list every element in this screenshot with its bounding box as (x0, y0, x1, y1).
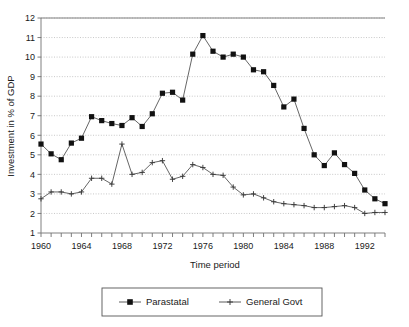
data-point-marker (251, 67, 256, 72)
data-point-marker (79, 136, 84, 141)
x-tick-label: 1980 (233, 241, 253, 251)
y-tick-label: 10 (25, 52, 35, 62)
data-point-marker (261, 195, 266, 200)
data-point-marker (119, 123, 124, 128)
data-point-marker (261, 69, 266, 74)
data-point-marker (210, 49, 215, 54)
data-point-marker (251, 191, 256, 196)
x-tick-label: 1972 (152, 241, 172, 251)
y-tick-label: 5 (30, 150, 35, 160)
y-tick-label: 6 (30, 131, 35, 141)
data-point-marker (382, 201, 387, 206)
chart-legend: ParastatalGeneral Govt (102, 288, 322, 316)
data-point-marker (231, 52, 236, 57)
series-parastatal (38, 33, 387, 206)
y-tick-label: 8 (30, 91, 35, 101)
data-point-marker (332, 150, 337, 155)
data-point-marker (372, 196, 377, 201)
data-point-marker (342, 162, 347, 167)
data-point-marker (170, 177, 175, 182)
y-tick-label: 11 (26, 33, 35, 43)
data-point-marker (99, 176, 104, 181)
data-point-marker (150, 111, 155, 116)
data-point-marker (69, 191, 74, 196)
data-point-marker (200, 33, 205, 38)
x-tick-label: 1964 (71, 241, 91, 251)
legend-label-parastatal: Parastatal (146, 296, 189, 307)
data-point-marker (129, 115, 134, 120)
data-point-marker (352, 205, 357, 210)
data-point-marker (301, 126, 306, 131)
x-tick-label: 1984 (274, 241, 294, 251)
x-axis-ticks: 196019641968197219761980198419881992 (31, 233, 385, 251)
data-point-marker (322, 163, 327, 168)
data-series (38, 33, 387, 216)
data-point-marker (69, 140, 74, 145)
x-axis-title: Time period (190, 259, 240, 270)
y-tick-label: 4 (30, 170, 35, 180)
y-tick-label: 7 (30, 111, 35, 121)
data-point-marker (322, 205, 327, 210)
data-point-marker (271, 199, 276, 204)
y-tick-label: 1 (30, 228, 35, 238)
y-tick-label: 3 (30, 189, 35, 199)
data-point-marker (99, 118, 104, 123)
data-point-marker (281, 104, 286, 109)
data-point-marker (200, 165, 205, 170)
y-tick-label: 2 (30, 209, 35, 219)
data-point-marker (291, 202, 296, 207)
data-point-marker (372, 210, 377, 215)
data-point-marker (38, 141, 43, 146)
data-point-marker (342, 203, 347, 208)
data-point-marker (221, 54, 226, 59)
data-point-marker (109, 181, 114, 186)
y-axis-ticks: 123456789101112 (25, 13, 41, 238)
data-point-marker (170, 90, 175, 95)
y-tick-label: 12 (25, 13, 35, 23)
chart-figure: 123456789101112 196019641968197219761980… (0, 0, 409, 327)
y-tick-label: 9 (30, 72, 35, 82)
data-point-marker (271, 83, 276, 88)
data-point-marker (382, 210, 387, 215)
legend-label-general-govt: General Govt (246, 296, 303, 307)
data-point-marker (119, 141, 124, 146)
x-tick-label: 1976 (193, 241, 213, 251)
data-point-marker (160, 158, 165, 163)
data-point-marker (332, 204, 337, 209)
data-point-marker (160, 91, 165, 96)
data-point-marker (312, 152, 317, 157)
data-point-marker (281, 201, 286, 206)
x-tick-label: 1960 (31, 241, 51, 251)
data-point-marker (362, 187, 367, 192)
data-point-marker (362, 211, 367, 216)
data-point-marker (109, 121, 114, 126)
data-point-marker (190, 52, 195, 57)
data-point-marker (180, 97, 185, 102)
data-point-marker (291, 97, 296, 102)
data-point-marker (301, 203, 306, 208)
data-point-marker (89, 114, 94, 119)
data-point-marker (38, 196, 43, 201)
data-point-marker (241, 54, 246, 59)
data-point-marker (352, 171, 357, 176)
investment-line-chart: 123456789101112 196019641968197219761980… (0, 0, 409, 327)
legend-marker-square (127, 299, 133, 305)
x-tick-label: 1988 (314, 241, 334, 251)
y-axis-title: Investment in % of GDP (5, 75, 16, 176)
data-point-marker (311, 205, 316, 210)
data-point-marker (49, 151, 54, 156)
x-tick-label: 1992 (355, 241, 375, 251)
data-point-marker (140, 124, 145, 129)
data-point-marker (129, 172, 134, 177)
x-tick-label: 1968 (112, 241, 132, 251)
data-point-marker (210, 172, 215, 177)
data-point-marker (59, 157, 64, 162)
